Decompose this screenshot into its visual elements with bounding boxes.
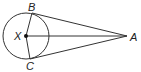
- segment-ca: [30, 36, 127, 59]
- center-point-x: [24, 34, 28, 38]
- segment-bx: [26, 13, 32, 36]
- geometry-diagram: X B C A: [0, 0, 141, 72]
- label-b: B: [28, 1, 35, 13]
- label-x: X: [13, 30, 22, 42]
- label-a: A: [129, 31, 137, 43]
- segment-xc: [26, 36, 30, 59]
- label-c: C: [26, 60, 34, 72]
